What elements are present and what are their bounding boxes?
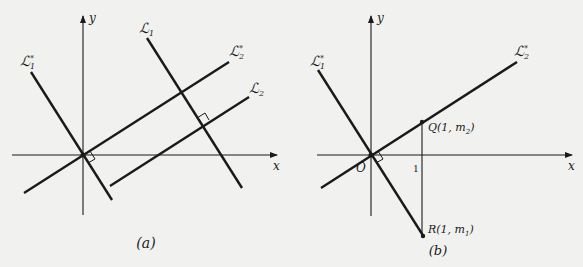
caption-b: (b) (429, 243, 447, 258)
label-L2-star: ℒ2* (229, 43, 244, 61)
label-L2: ℒ2 (249, 80, 264, 98)
x-axis-label: x (273, 159, 280, 173)
label-point-R: R(1, m1) (427, 223, 474, 238)
label-L1-star: ℒ1* (310, 53, 325, 71)
line-L2-star (321, 62, 517, 188)
panel-a: x y ℒ1* ℒ2* ℒ1 ℒ2 (a) (12, 11, 280, 251)
perpendicular-lines-figure: x y ℒ1* ℒ2* ℒ1 ℒ2 (a) x y (0, 0, 583, 267)
line-L1 (147, 38, 242, 188)
y-axis-label: y (376, 11, 384, 25)
origin-point (369, 153, 374, 158)
label-L2-star: ℒ2* (514, 43, 529, 61)
label-L1: ℒ1 (139, 20, 154, 38)
origin-point (81, 153, 86, 158)
point-Q (420, 120, 424, 124)
caption-a: (a) (136, 235, 155, 251)
point-R (421, 234, 425, 238)
label-point-Q: Q(1, m2) (428, 121, 475, 136)
origin-label: O (356, 161, 366, 175)
panel-b: x y ℒ1* ℒ2* O 1 Q(1, m2) R(1, m1) (b) (310, 11, 575, 258)
x-axis-label: x (568, 159, 575, 173)
line-L2 (110, 97, 249, 186)
label-L1-star: ℒ1* (20, 53, 35, 71)
tick-label-1: 1 (413, 162, 419, 174)
y-axis-label: y (88, 11, 96, 25)
line-L2-star (24, 62, 229, 193)
